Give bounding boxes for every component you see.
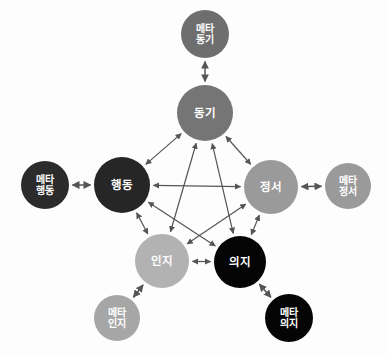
connector-e-beh-emo <box>153 185 240 186</box>
connector-e-emo-wil <box>251 215 259 235</box>
node-meta-behavior[interactable]: 메타행동 <box>21 161 69 209</box>
node-label: 의지 <box>280 318 298 329</box>
node-label: 동기 <box>194 107 216 120</box>
node-label: 메타 <box>108 307 126 318</box>
node-meta-motivation[interactable]: 메타동기 <box>181 10 229 58</box>
node-meta-will[interactable]: 메타의지 <box>265 294 313 342</box>
connector-e-mot-beh <box>146 134 181 165</box>
connector-e-mot-cog <box>171 143 197 231</box>
node-label: 메타 <box>339 175 357 186</box>
node-label: 동기 <box>196 34 214 45</box>
node-meta-emotion[interactable]: 메타정서 <box>325 163 371 209</box>
connector-e-mot-emo <box>226 137 251 165</box>
node-label: 메타 <box>36 174 54 185</box>
node-label: 인지 <box>151 255 173 268</box>
node-label: 정서 <box>260 181 282 194</box>
node-label: 메타 <box>196 23 214 34</box>
node-label: 정서 <box>339 186 357 197</box>
node-label: 행동 <box>111 179 133 192</box>
node-will[interactable]: 의지 <box>214 236 266 288</box>
connector-e-meta-wil <box>259 284 270 297</box>
connector-e-meta-cog <box>133 285 143 297</box>
node-cognition[interactable]: 인지 <box>135 234 189 288</box>
connector-e-beh-cog <box>137 213 148 234</box>
node-motivation[interactable]: 동기 <box>177 85 233 141</box>
node-label: 행동 <box>36 185 54 196</box>
node-meta-cognition[interactable]: 메타인지 <box>94 295 140 341</box>
node-label: 메타 <box>280 307 298 318</box>
node-label: 의지 <box>229 256 251 269</box>
node-emotion[interactable]: 정서 <box>244 160 298 214</box>
node-behavior[interactable]: 행동 <box>94 157 150 213</box>
diagram-canvas: 메타동기동기메타행동행동정서메타정서인지의지메타인지메타의지 <box>0 0 390 354</box>
node-label: 인지 <box>108 318 126 329</box>
